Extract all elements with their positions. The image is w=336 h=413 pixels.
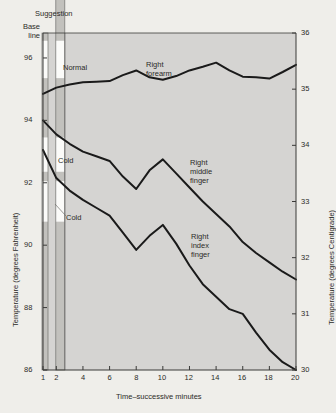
x-tick-14: 14 xyxy=(211,373,219,382)
x-tick-10: 10 xyxy=(158,373,166,382)
x-tick-1: 1 xyxy=(41,373,45,382)
left-tick-96: 96 xyxy=(24,53,32,62)
left-axis-title: Temperature (degrees Fahrenheit) xyxy=(11,213,20,327)
right-tick-35: 35 xyxy=(301,84,309,93)
series-label-right-index-finger: Right index finger xyxy=(191,232,210,260)
x-tick-20: 20 xyxy=(291,373,299,382)
right-tick-30: 30 xyxy=(301,365,309,374)
right-tick-33: 33 xyxy=(301,197,309,206)
x-tick-12: 12 xyxy=(184,373,192,382)
x-tick-4: 4 xyxy=(81,373,85,382)
suggestion-bar-segment xyxy=(56,138,65,172)
right-tick-36: 36 xyxy=(301,28,309,37)
left-tick-86: 86 xyxy=(24,365,32,374)
x-tick-8: 8 xyxy=(134,373,138,382)
cold-upper-label: Cold xyxy=(58,156,73,165)
right-tick-34: 34 xyxy=(301,140,309,149)
x-axis-title: Time–successive minutes xyxy=(116,392,202,401)
suggestion-bar-segment xyxy=(56,0,65,41)
left-tick-92: 92 xyxy=(24,178,32,187)
left-tick-90: 90 xyxy=(24,240,32,249)
cold-lower-label: Cold xyxy=(66,213,81,222)
left-tick-94: 94 xyxy=(24,115,32,124)
x-tick-18: 18 xyxy=(264,373,272,382)
x-tick-2: 2 xyxy=(54,373,58,382)
series-label-right-forearm: Right forearm xyxy=(146,60,172,78)
right-tick-32: 32 xyxy=(301,253,309,262)
x-tick-6: 6 xyxy=(108,373,112,382)
right-tick-31: 31 xyxy=(301,309,309,318)
normal-label: Normal xyxy=(63,63,87,72)
right-axis-title: Temperature (degrees Centigrade) xyxy=(327,210,336,325)
suggestion-label: Suggestion xyxy=(35,9,73,18)
x-tick-16: 16 xyxy=(238,373,246,382)
suggestion-bar-segment xyxy=(56,41,65,78)
suggestion-bar-segment xyxy=(56,181,65,222)
base-line-label: Base line xyxy=(14,22,40,40)
suggestion-bar-segment xyxy=(56,222,65,370)
left-tick-88: 88 xyxy=(24,303,32,312)
series-label-right-middle-finger: Right middle finger xyxy=(190,158,212,186)
